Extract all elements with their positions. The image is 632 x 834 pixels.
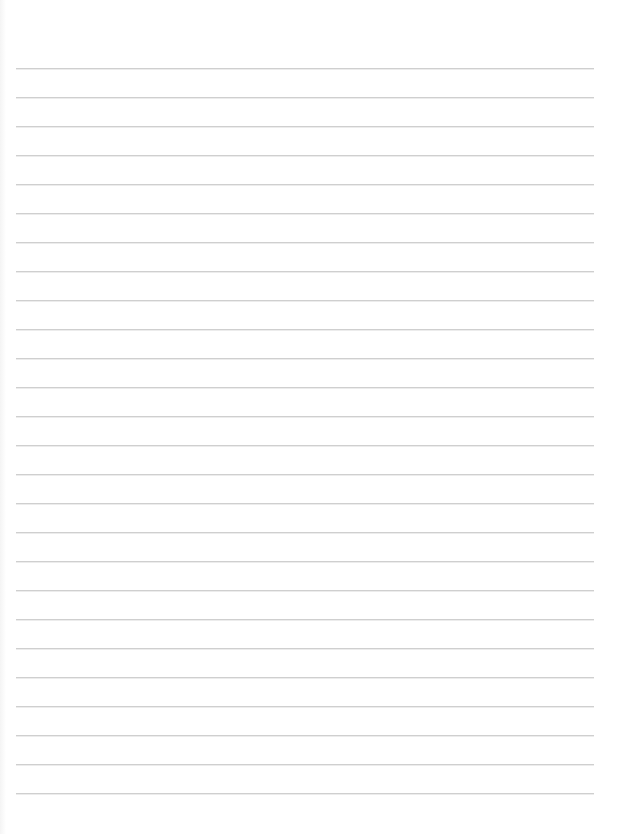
ruled-line xyxy=(16,648,594,649)
ruled-line xyxy=(16,532,594,533)
ruled-line xyxy=(16,735,594,736)
ruled-line xyxy=(16,213,594,214)
ruled-line xyxy=(16,155,594,156)
ruled-line xyxy=(16,590,594,591)
ruled-line xyxy=(16,97,594,98)
ruled-line xyxy=(16,271,594,272)
ruled-line xyxy=(16,68,594,69)
ruled-line xyxy=(16,677,594,678)
scan-margin-shadow xyxy=(0,0,6,834)
ruled-line xyxy=(16,126,594,127)
ruled-line xyxy=(16,503,594,504)
ruled-line xyxy=(16,242,594,243)
lined-paper-page xyxy=(0,0,632,834)
ruled-line xyxy=(16,329,594,330)
ruled-line xyxy=(16,184,594,185)
ruled-line xyxy=(16,300,594,301)
ruled-line xyxy=(16,619,594,620)
ruled-line xyxy=(16,445,594,446)
ruled-line xyxy=(16,358,594,359)
ruled-line xyxy=(16,416,594,417)
ruled-line xyxy=(16,706,594,707)
ruled-line xyxy=(16,561,594,562)
ruled-line xyxy=(16,474,594,475)
ruled-line xyxy=(16,387,594,388)
ruled-line xyxy=(16,793,594,794)
ruled-line xyxy=(16,764,594,765)
